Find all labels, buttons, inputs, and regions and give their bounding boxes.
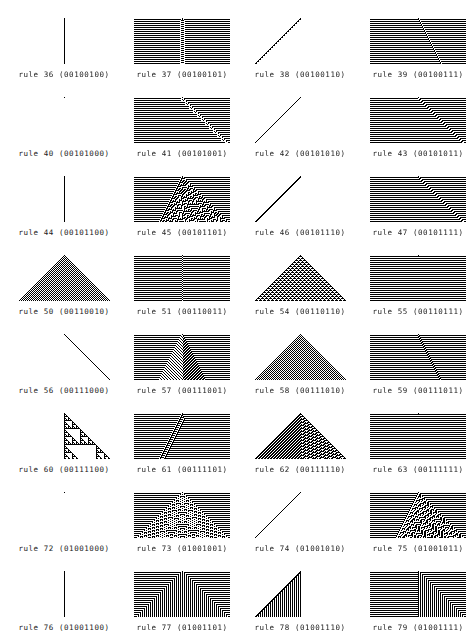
ca-rule-label: rule 79 (01001111) [372, 623, 463, 633]
ca-rule-label: rule 37 (00100101) [136, 70, 227, 80]
ca-rule-label: rule 75 (01001011) [372, 544, 463, 554]
ca-rule-label: rule 58 (00111010) [254, 386, 345, 396]
ca-panel-cell: rule 61 (00111101) [123, 413, 241, 475]
ca-diagram-wrap [16, 176, 112, 222]
ca-panel-cell: rule 47 (00101111) [359, 176, 472, 238]
ca-spacetime-diagram [252, 255, 348, 301]
ca-spacetime-diagram [16, 571, 112, 617]
ca-spacetime-diagram [370, 571, 466, 617]
ca-panel-cell: rule 50 (00110010) [5, 255, 123, 317]
ca-diagram-wrap [252, 413, 348, 459]
ca-rule-label: rule 63 (00111111) [372, 465, 463, 475]
ca-spacetime-diagram [252, 571, 348, 617]
ca-diagram-wrap [16, 97, 112, 143]
ca-rule-label: rule 47 (00101111) [372, 228, 463, 238]
ca-panel-cell: rule 59 (00111011) [359, 334, 472, 396]
ca-rule-label: rule 46 (00101110) [254, 228, 345, 238]
ca-rule-label: rule 42 (00101010) [254, 149, 345, 159]
ca-panel-cell: rule 76 (01001100) [5, 571, 123, 633]
ca-rule-label: rule 73 (01001001) [136, 544, 227, 554]
ca-diagram-wrap [252, 97, 348, 143]
ca-spacetime-diagram [252, 413, 348, 459]
ca-diagram-wrap [134, 97, 230, 143]
ca-spacetime-diagram [134, 413, 230, 459]
ca-panel-cell: rule 63 (00111111) [359, 413, 472, 475]
ca-spacetime-diagram [370, 492, 466, 538]
ca-panel-cell: rule 78 (01001110) [241, 571, 359, 633]
ca-diagram-wrap [252, 255, 348, 301]
ca-rule-label: rule 62 (00111110) [254, 465, 345, 475]
ca-panel-cell: rule 79 (01001111) [359, 571, 472, 633]
ca-diagram-wrap [252, 18, 348, 64]
ca-diagram-wrap [16, 334, 112, 380]
ca-panel-cell: rule 74 (01001010) [241, 492, 359, 554]
ca-spacetime-diagram [134, 492, 230, 538]
ca-spacetime-diagram [16, 18, 112, 64]
ca-panel-cell: rule 77 (01001101) [123, 571, 241, 633]
ca-diagram-wrap [370, 97, 466, 143]
ca-rule-label: rule 78 (01001110) [254, 623, 345, 633]
ca-diagram-wrap [134, 413, 230, 459]
ca-spacetime-diagram [134, 334, 230, 380]
ca-spacetime-diagram [252, 18, 348, 64]
ca-rule-label: rule 45 (00101101) [136, 228, 227, 238]
ca-panel-cell: rule 73 (01001001) [123, 492, 241, 554]
ca-panel-cell: rule 51 (00110011) [123, 255, 241, 317]
ca-spacetime-diagram [252, 492, 348, 538]
ca-diagram-wrap [370, 176, 466, 222]
ca-diagram-wrap [16, 18, 112, 64]
ca-spacetime-diagram [370, 18, 466, 64]
ca-spacetime-diagram [370, 176, 466, 222]
ca-rule-label: rule 57 (00111001) [136, 386, 227, 396]
ca-diagram-wrap [370, 255, 466, 301]
ca-panel-cell: rule 36 (00100100) [5, 18, 123, 80]
ca-spacetime-diagram [134, 97, 230, 143]
ca-diagram-wrap [16, 492, 112, 538]
ca-rule-label: rule 43 (00101011) [372, 149, 463, 159]
ca-diagram-wrap [134, 176, 230, 222]
ca-panel-cell: rule 42 (00101010) [241, 97, 359, 159]
ca-panel-cell: rule 54 (00110110) [241, 255, 359, 317]
ca-rule-label: rule 41 (00101001) [136, 149, 227, 159]
ca-panel-cell: rule 58 (00111010) [241, 334, 359, 396]
ca-diagram-wrap [134, 334, 230, 380]
ca-panel-cell: rule 72 (01001000) [5, 492, 123, 554]
ca-rule-label: rule 44 (00101100) [18, 228, 109, 238]
ca-rule-label: rule 55 (00110111) [372, 307, 463, 317]
ca-panel-cell: rule 38 (00100110) [241, 18, 359, 80]
ca-panel-cell: rule 60 (00111100) [5, 413, 123, 475]
ca-diagram-wrap [252, 334, 348, 380]
ca-rule-label: rule 56 (00111000) [18, 386, 109, 396]
ca-rule-label: rule 50 (00110010) [18, 307, 109, 317]
ca-diagram-wrap [252, 571, 348, 617]
ca-rule-label: rule 40 (00101000) [18, 149, 109, 159]
ca-rule-label: rule 76 (01001100) [18, 623, 109, 633]
ca-panel-cell: rule 39 (00100111) [359, 18, 472, 80]
ca-spacetime-diagram [370, 413, 466, 459]
ca-panel-cell: rule 37 (00100101) [123, 18, 241, 80]
ca-spacetime-diagram [134, 255, 230, 301]
ca-spacetime-diagram [134, 176, 230, 222]
ca-panel-cell: rule 43 (00101011) [359, 97, 472, 159]
ca-spacetime-diagram [370, 97, 466, 143]
ca-rule-label: rule 77 (01001101) [136, 623, 227, 633]
ca-spacetime-diagram [252, 334, 348, 380]
ca-panel-cell: rule 55 (00110111) [359, 255, 472, 317]
ca-diagram-wrap [370, 492, 466, 538]
ca-rule-label: rule 60 (00111100) [18, 465, 109, 475]
ca-panel-cell: rule 45 (00101101) [123, 176, 241, 238]
ca-rule-label: rule 74 (01001010) [254, 544, 345, 554]
ca-spacetime-diagram [16, 176, 112, 222]
ca-rule-gallery: rule 36 (00100100)rule 37 (00100101)rule… [0, 0, 472, 639]
ca-diagram-wrap [134, 255, 230, 301]
ca-panel-cell: rule 62 (00111110) [241, 413, 359, 475]
ca-diagram-wrap [16, 255, 112, 301]
ca-panel-cell: rule 56 (00111000) [5, 334, 123, 396]
ca-diagram-wrap [16, 413, 112, 459]
ca-rule-label: rule 61 (00111101) [136, 465, 227, 475]
ca-panel-cell: rule 75 (01001011) [359, 492, 472, 554]
ca-diagram-wrap [134, 18, 230, 64]
ca-rule-label: rule 36 (00100100) [18, 70, 109, 80]
ca-diagram-wrap [16, 571, 112, 617]
ca-panel-cell: rule 57 (00111001) [123, 334, 241, 396]
